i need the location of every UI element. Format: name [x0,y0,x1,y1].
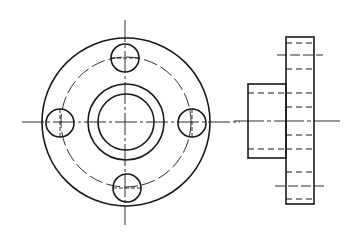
bolt-hole-bottom [113,174,141,202]
bolt-hole-right [178,109,206,137]
flange-outline [286,37,314,204]
bolt-hole-left [46,109,74,137]
flange-technical-drawing: Flange – front view and side view [0,0,358,240]
front-view [22,20,240,225]
side-view [234,37,340,204]
